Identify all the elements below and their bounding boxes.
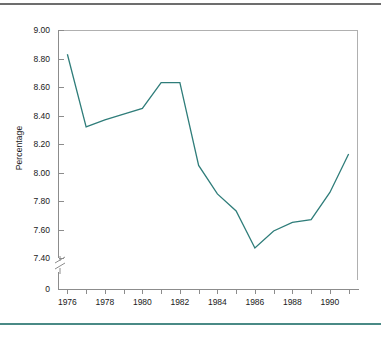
data-series-line (0, 8, 381, 320)
chart-page: Percentage 9.008.808.608.408.208.007.807… (0, 0, 381, 338)
line-chart-figure: Percentage 9.008.808.608.408.208.007.807… (0, 8, 381, 320)
bottom-divider-rule (0, 323, 381, 325)
top-divider-rule (0, 3, 381, 5)
